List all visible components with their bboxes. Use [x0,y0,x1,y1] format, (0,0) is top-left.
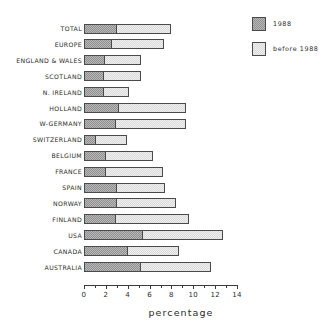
bar-segment-before-1988 [118,103,186,113]
chart-row: HOLLAND [0,103,332,114]
bar-segment-before-1988 [111,39,163,49]
x-tick-label: 8 [169,291,174,300]
stacked-bar [84,230,223,240]
bar-segment-before-1988 [104,55,141,65]
bar-segment-1988 [84,24,117,34]
chart-row: FINLAND [0,214,332,225]
bar-segment-1988 [84,119,116,129]
bar-segment-1988 [84,262,141,272]
category-label: AUSTRALIA [0,262,82,273]
stacked-bar [84,119,186,129]
x-axis-title: percentage [0,307,332,318]
bar-segment-1988 [84,103,119,113]
bar-segment-before-1988 [142,230,223,240]
stacked-bar [84,24,171,34]
stacked-bar [84,198,176,208]
category-label: HOLLAND [0,103,82,114]
category-label: TOTAL [0,23,82,34]
x-tick-major [106,285,107,289]
chart-row: AUSTRALIA [0,262,332,273]
bar-segment-1988 [84,183,117,193]
stacked-bar [84,167,163,177]
stacked-bar [84,39,164,49]
chart-row: N. IRELAND [0,87,332,98]
x-tick-minor [182,285,183,288]
category-label: BELGIUM [0,150,82,161]
stacked-bar [84,87,129,97]
bar-segment-1988 [84,230,143,240]
bar-segment-before-1988 [140,262,211,272]
x-tick-label: 10 [189,291,199,300]
bar-segment-1988 [84,87,104,97]
bar-segment-before-1988 [95,135,127,145]
bar-segment-1988 [84,55,105,65]
legend-label-1988: 1988 [273,20,292,28]
bar-segment-1988 [84,246,128,256]
bar-segment-before-1988 [103,71,141,81]
bar-segment-1988 [84,198,117,208]
bar-segment-before-1988 [116,198,176,208]
stacked-bar [84,103,186,113]
x-tick-label: 0 [82,291,87,300]
x-tick-label: 14 [232,291,242,300]
category-label: FRANCE [0,166,82,177]
x-tick-minor [117,285,118,288]
chart-row: BELGIUM [0,150,332,161]
x-tick-minor [95,285,96,288]
category-label: SPAIN [0,182,82,193]
chart-row: CANADA [0,246,332,257]
bar-segment-before-1988 [127,246,179,256]
bar-segment-before-1988 [115,214,189,224]
x-tick-label: 6 [147,291,152,300]
stacked-bar [84,71,141,81]
legend-label-before-1988: before 1988 [273,45,318,53]
category-label: USA [0,230,82,241]
legend-swatch-before-1988 [252,42,266,56]
x-tick-minor [204,285,205,288]
x-tick-major [128,285,129,289]
category-label: W-GERMANY [0,118,82,129]
x-tick-label: 2 [103,291,108,300]
category-label: NORWAY [0,198,82,209]
chart-row: W-GERMANY [0,118,332,129]
chart-row: SWITZERLAND [0,134,332,145]
x-tick-minor [161,285,162,288]
x-tick-major [150,285,151,289]
chart-row: SPAIN [0,182,332,193]
bar-segment-before-1988 [116,183,165,193]
stacked-bar [84,135,127,145]
stacked-bar [84,151,153,161]
chart-row: SCOTLAND [0,71,332,82]
chart-row: FRANCE [0,166,332,177]
stacked-bar [84,214,189,224]
legend-swatch-1988 [252,17,266,31]
chart-row: USA [0,230,332,241]
category-label: FINLAND [0,214,82,225]
category-label: ENGLAND & WALES [0,55,82,66]
percentage-bar-chart: TOTALEUROPEENGLAND & WALESSCOTLANDN. IRE… [0,0,332,333]
bar-segment-before-1988 [105,151,153,161]
stacked-bar [84,183,165,193]
x-tick-major [193,285,194,289]
x-tick-major [171,285,172,289]
bar-segment-1988 [84,167,106,177]
category-label: N. IRELAND [0,87,82,98]
stacked-bar [84,246,179,256]
category-label: SCOTLAND [0,71,82,82]
x-tick-minor [226,285,227,288]
chart-row: ENGLAND & WALES [0,55,332,66]
x-tick-major [237,285,238,289]
bar-segment-before-1988 [103,87,129,97]
category-label: CANADA [0,246,82,257]
stacked-bar [84,55,141,65]
x-tick-label: 4 [125,291,130,300]
category-label: SWITZERLAND [0,134,82,145]
bar-segment-1988 [84,151,106,161]
bar-segment-1988 [84,214,116,224]
x-tick-minor [139,285,140,288]
bar-segment-before-1988 [115,119,186,129]
chart-row: NORWAY [0,198,332,209]
x-tick-major [215,285,216,289]
bar-segment-before-1988 [105,167,163,177]
bar-segment-1988 [84,71,104,81]
